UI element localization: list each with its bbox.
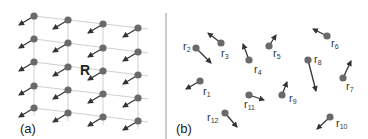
lattice-site-dot [64, 16, 71, 23]
grid-line [34, 16, 148, 29]
position-label-r6: r6 [331, 37, 339, 50]
position-label-r1: r1 [203, 85, 211, 98]
position-label-r12: r12 [207, 111, 219, 124]
lattice-site-dot [64, 39, 71, 46]
lattice-site-dot [30, 104, 37, 111]
atom-dot [196, 77, 203, 84]
lattice-site-dot [99, 113, 106, 120]
atom-dot [265, 42, 272, 49]
atom-dot [278, 91, 285, 98]
grid-line [34, 62, 148, 76]
lattice-site-dot [99, 90, 106, 97]
panel-b-label: (b) [176, 121, 192, 136]
grid-line [34, 39, 148, 53]
position-label-r2: r2 [183, 40, 191, 53]
grid-line [34, 108, 148, 122]
panel-b-disordered: r1r2r3r4r5r6r7r8r9r10r11r12 [183, 29, 354, 130]
position-label-r7: r7 [346, 80, 354, 93]
lattice-site-dot [134, 24, 141, 31]
panel-a-label: (a) [20, 121, 36, 136]
position-label-r5: r5 [273, 47, 281, 60]
diagram-canvas: r1r2r3r4r5r6r7r8r9r10r11r12 (a) (b) R [0, 0, 368, 139]
lattice-site-dot [64, 109, 71, 116]
lattice-site-dot [30, 35, 37, 42]
atom-dot [323, 32, 330, 39]
lattice-site-dot [134, 117, 141, 124]
position-label-r11: r11 [244, 98, 255, 111]
lattice-site-dot [99, 67, 106, 74]
lattice-site-dot [64, 63, 71, 70]
lattice-vector-label: R [80, 62, 90, 78]
lattice-site-dot [99, 44, 106, 51]
atom-dot [221, 109, 228, 116]
lattice-site-dot [30, 12, 37, 19]
position-label-r8: r8 [314, 53, 322, 66]
lattice-site-dot [30, 58, 37, 65]
position-label-r10: r10 [336, 117, 348, 130]
grid-line [34, 86, 148, 99]
atom-dot [304, 56, 311, 63]
atom-dot [217, 39, 224, 46]
lattice-site-dot [134, 48, 141, 55]
position-label-r3: r3 [221, 47, 229, 60]
lattice-site-dot [99, 20, 106, 27]
atom-dot [326, 113, 333, 120]
atom-dot [245, 56, 252, 63]
position-label-r4: r4 [254, 63, 262, 76]
lattice-site-dot [64, 86, 71, 93]
lattice-site-dot [134, 94, 141, 101]
atom-dot [192, 44, 199, 51]
lattice-site-dot [134, 71, 141, 78]
position-label-r9: r9 [289, 92, 297, 105]
lattice-site-dot [30, 82, 37, 89]
